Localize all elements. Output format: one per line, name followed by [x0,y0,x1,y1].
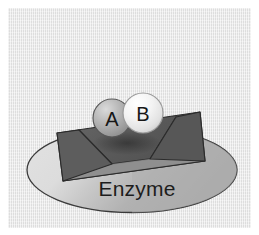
substrate-b-label: B [136,103,149,125]
substrate-a-label: A [105,108,119,130]
enzyme-illustration: A B Enzyme [0,0,259,235]
enzyme-diagram-figure: A B Enzyme [0,0,259,235]
enzyme-label: Enzyme [98,177,175,200]
substrate-b: B [123,93,163,133]
